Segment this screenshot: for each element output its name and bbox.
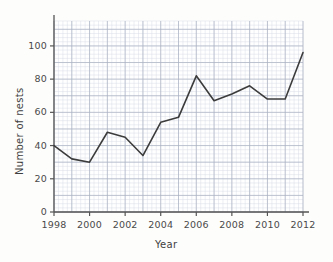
x-tick-label: 2006 [181, 219, 211, 230]
y-tick-label: 80 [35, 73, 48, 84]
x-tick-label: 2000 [75, 219, 105, 230]
x-tick-label: 2004 [146, 219, 176, 230]
y-tick-label: 60 [35, 106, 48, 117]
chart-figure: Number of nests Year 0204060801001998200… [0, 0, 333, 262]
y-tick-label: 0 [41, 206, 47, 217]
x-tick-label: 2002 [110, 219, 140, 230]
x-tick-label: 1998 [39, 219, 69, 230]
y-tick-label: 40 [35, 140, 48, 151]
x-tick-label: 2010 [252, 219, 282, 230]
x-axis-title: Year [155, 239, 177, 250]
y-tick-label: 100 [28, 40, 47, 51]
x-tick-label: 2012 [288, 219, 318, 230]
x-tick-label: 2008 [217, 219, 247, 230]
y-axis-title: Number of nests [14, 88, 25, 176]
y-tick-label: 20 [35, 173, 48, 184]
